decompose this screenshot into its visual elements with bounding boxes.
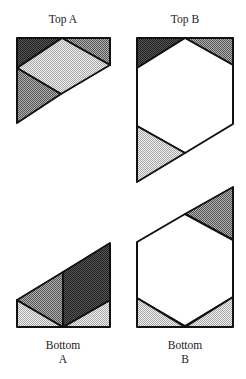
shape-top-a (17, 38, 110, 123)
tiling-diagram (0, 0, 246, 379)
shape-bottom-b (137, 187, 233, 327)
shape-top-b (137, 38, 233, 182)
shape-bottom-a (17, 243, 110, 327)
